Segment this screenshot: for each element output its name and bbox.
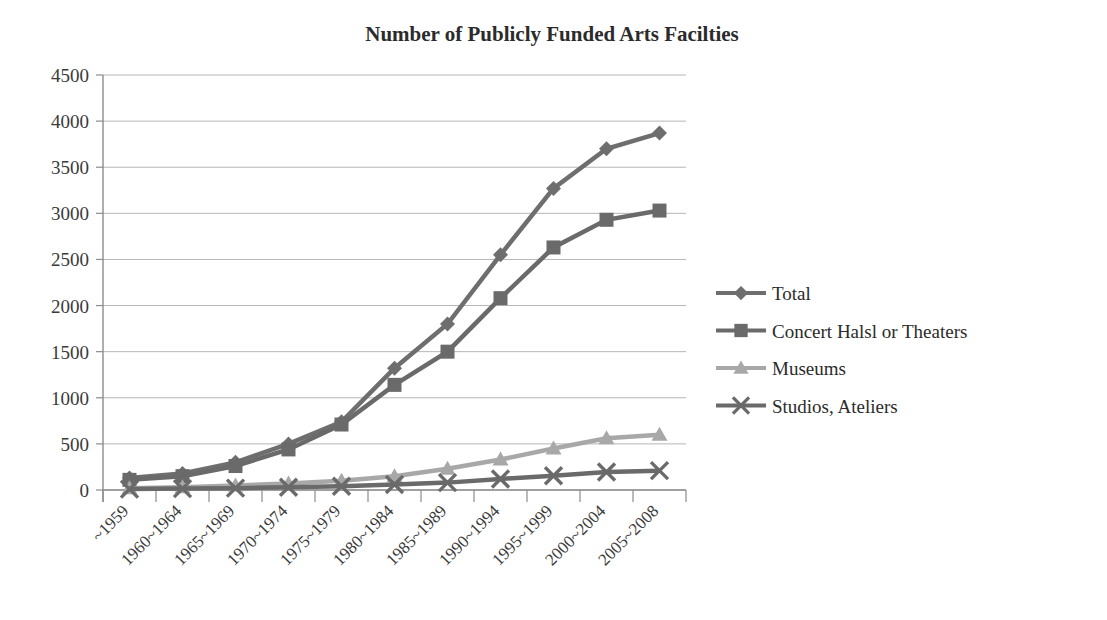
- legend-label: Total: [772, 283, 811, 304]
- square-marker: [600, 213, 614, 227]
- square-marker: [653, 204, 667, 218]
- legend-label: Studios, Ateliers: [772, 396, 898, 417]
- marker-square: [388, 378, 402, 392]
- marker-square: [229, 459, 243, 473]
- legend-label: Concert Halsl or Theaters: [772, 321, 967, 342]
- y-tick-label: 0: [80, 480, 90, 501]
- y-tick-label: 4500: [51, 65, 89, 86]
- square-marker: [282, 442, 296, 456]
- marker-square: [600, 213, 614, 227]
- y-tick-label: 2000: [51, 296, 89, 317]
- marker-square: [441, 345, 455, 359]
- y-tick-label: 3000: [51, 203, 89, 224]
- marker-square: [494, 291, 508, 305]
- marker-square: [547, 240, 561, 254]
- y-tick-label: 4000: [51, 111, 89, 132]
- marker-square: [653, 204, 667, 218]
- chart-container: Number of Publicly Funded Arts Facilties…: [0, 0, 1107, 620]
- y-tick-label: 500: [61, 434, 90, 455]
- square-marker: [388, 378, 402, 392]
- y-tick-label: 1000: [51, 388, 89, 409]
- marker-square: [734, 324, 747, 337]
- arts-facilities-line-chart: Number of Publicly Funded Arts Facilties…: [0, 0, 1107, 620]
- chart-title: Number of Publicly Funded Arts Facilties: [365, 22, 739, 46]
- square-marker: [547, 240, 561, 254]
- square-marker: [335, 418, 349, 432]
- square-marker: [441, 345, 455, 359]
- y-tick-label: 3500: [51, 157, 89, 178]
- y-tick-label: 2500: [51, 249, 89, 270]
- legend-label: Museums: [772, 358, 846, 379]
- square-marker: [494, 291, 508, 305]
- square-marker: [229, 459, 243, 473]
- marker-square: [335, 418, 349, 432]
- y-tick-label: 1500: [51, 342, 89, 363]
- marker-square: [282, 442, 296, 456]
- square-marker: [734, 324, 747, 337]
